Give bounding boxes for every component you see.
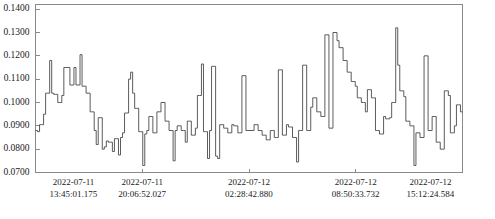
y-tick-label: 0.0900 — [3, 120, 29, 130]
x-tick-label-time: 02:28:42.880 — [225, 189, 273, 199]
x-tick-label-date: 2022-07-11 — [121, 177, 163, 187]
time-series-chart: 0.07000.08000.09000.10000.11000.12000.13… — [0, 0, 495, 219]
data-series-line — [36, 28, 463, 166]
x-tick-label-time: 08:50:33.732 — [332, 189, 380, 199]
y-tick-label: 0.1200 — [3, 50, 29, 60]
y-tick-label: 0.1400 — [3, 3, 29, 13]
x-tick-label-time: 13:45:01.175 — [50, 189, 98, 199]
y-tick-label: 0.1000 — [3, 97, 29, 107]
chart-canvas: 0.07000.08000.09000.10000.11000.12000.13… — [0, 0, 495, 219]
y-tick-label: 0.0700 — [3, 167, 29, 177]
x-tick-label-date: 2022-07-12 — [228, 177, 270, 187]
plot-frame — [36, 5, 463, 173]
y-axis: 0.07000.08000.09000.10000.11000.12000.13… — [3, 3, 39, 176]
x-tick-label-date: 2022-07-12 — [410, 177, 452, 187]
x-tick-label-time: 20:06:52.027 — [118, 189, 166, 199]
x-tick-label-time: 15:12:24.584 — [407, 189, 455, 199]
y-tick-label: 0.1300 — [3, 27, 29, 37]
x-tick-label-date: 2022-07-12 — [335, 177, 377, 187]
y-tick-label: 0.1100 — [4, 73, 30, 83]
x-tick-label-date: 2022-07-11 — [53, 177, 95, 187]
y-tick-label: 0.0800 — [3, 143, 29, 153]
